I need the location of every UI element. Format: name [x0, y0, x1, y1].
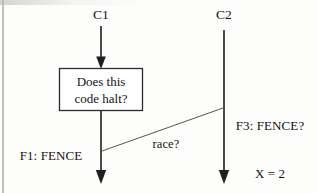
thread-label-c1: C1	[81, 7, 121, 23]
thread-label-c2: C2	[204, 7, 244, 23]
decision-box-line-2: code halt?	[60, 90, 142, 107]
decision-box-line-1: Does this	[60, 73, 142, 90]
left-code-block: F1: FENCE X = 1 F2: FENCE	[12, 116, 90, 193]
c2-timeline-arrow	[219, 30, 229, 184]
c1-top-arrow	[96, 26, 106, 69]
right-code-line-2: X = 2	[229, 166, 311, 182]
right-code-block: F3: FENCE? X = 2 F4: FENCE?	[229, 86, 311, 193]
c1-bottom-arrow	[96, 110, 106, 184]
right-code-line-1: F3: FENCE?	[229, 118, 311, 134]
figure-canvas: C1 C2 Does this code halt? F1: FENCE X =…	[0, 0, 317, 193]
left-code-line-1: F1: FENCE	[12, 148, 90, 164]
race-label: race?	[143, 136, 189, 152]
decision-box-text: Does this code halt?	[60, 73, 142, 107]
